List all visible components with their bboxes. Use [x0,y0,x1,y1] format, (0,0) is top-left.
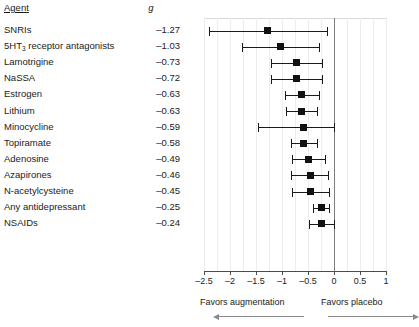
effect-size-value: –0.49 [122,151,180,167]
table-row: Adenosine–0.49 [4,151,194,167]
effect-size-value: –0.46 [122,167,180,183]
effect-size-marker [300,140,307,147]
ci-lower-cap [309,220,310,229]
effect-size-marker [305,156,312,163]
effect-size-marker [300,124,307,131]
axis-tick [308,271,309,275]
ci-lower-cap [285,91,286,100]
agent-label: Topiramate [4,135,51,151]
ci-lower-cap [313,204,314,213]
axis-tick [386,271,387,275]
effect-size-value: –0.63 [122,103,180,119]
study-row [204,55,386,71]
study-row [204,120,386,136]
arrow-left-icon [218,316,304,317]
effect-size-marker [293,75,300,82]
confidence-interval-line [258,127,334,128]
study-row [204,152,386,168]
ci-upper-cap [329,188,330,197]
ci-lower-cap [291,139,292,148]
axis-tick [360,271,361,275]
effect-size-value: –0.59 [122,119,180,135]
ci-upper-cap [325,155,326,164]
column-header-effect-size: g [144,2,158,13]
ci-upper-cap [317,107,318,116]
effect-size-marker [318,220,325,227]
study-row [204,184,386,200]
ci-upper-cap [317,139,318,148]
agent-label: Lamotrigine [4,54,54,70]
agent-label: Estrogen [4,86,42,102]
table-row: Topiramate–0.58 [4,135,194,151]
effect-size-value: –0.58 [122,135,180,151]
effect-size-value: –0.45 [122,183,180,199]
ci-upper-cap [322,75,323,84]
column-header-agent: Agent [4,2,29,13]
ci-lower-cap [258,123,259,132]
study-row [204,39,386,55]
effect-size-marker [298,91,305,98]
axis-tick [334,271,335,275]
effect-size-value: –1.03 [122,38,180,54]
effect-size-marker [318,204,325,211]
arrow-right-head-icon [413,314,419,320]
agent-label: Azapirones [4,167,52,183]
ci-lower-cap [271,59,272,68]
effect-size-value: –0.24 [122,215,180,231]
ci-lower-cap [292,188,293,197]
table-row: Any antidepressant–0.25 [4,199,194,215]
ci-lower-cap [242,43,243,52]
agent-label: N-acetylcysteine [4,183,74,199]
effect-size-marker [298,108,305,115]
agent-label: Any antidepressant [4,199,85,215]
arrow-left-head-icon [213,314,219,320]
effect-size-marker [307,172,314,179]
ci-upper-cap [319,43,320,52]
favors-augmentation-label: Favors augmentation [200,297,285,307]
ci-upper-cap [329,204,330,213]
ci-upper-cap [334,123,335,132]
ci-lower-cap [291,171,292,180]
axis-tick [204,271,205,275]
effect-size-value: –0.72 [122,70,180,86]
study-row [204,87,386,103]
table-row: Lamotrigine–0.73 [4,54,194,70]
ci-lower-cap [271,75,272,84]
agent-label: Adenosine [4,151,49,167]
study-row [204,168,386,184]
ci-lower-cap [286,107,287,116]
table-header-row: Agent g [4,2,194,18]
study-row [204,216,386,232]
effect-size-value: –1.27 [122,22,180,38]
table-row: N-acetylcysteine–0.45 [4,183,194,199]
table-row: SNRIs–1.27 [4,22,194,38]
agent-label: 5HT3 receptor antagonists [4,38,114,55]
effect-size-value: –0.25 [122,199,180,215]
ci-upper-cap [319,91,320,100]
axis-tick [282,271,283,275]
table-row: Minocycline–0.59 [4,119,194,135]
agent-label: Lithium [4,103,35,119]
favors-placebo-label: Favors placebo [321,297,383,307]
axis-tick [230,271,231,275]
table-row: Estrogen–0.63 [4,86,194,102]
effect-size-marker [277,43,284,50]
table-row: Azapirones–0.46 [4,167,194,183]
axis-tick-label: 1 [368,276,404,286]
axis-line [204,271,386,272]
gridline [386,18,387,271]
axis-direction-legend: Favors augmentation Favors placebo [196,297,401,327]
effect-size-value: –0.63 [122,86,180,102]
study-row [204,200,386,216]
table-row: Lithium–0.63 [4,103,194,119]
study-row [204,23,386,39]
effect-size-marker [264,27,271,34]
agent-label: Minocycline [4,119,54,135]
ci-upper-cap [322,59,323,68]
ci-lower-cap [209,27,210,36]
ci-lower-cap [292,155,293,164]
agent-label: NaSSA [4,70,35,86]
table-row: NaSSA–0.72 [4,70,194,86]
study-row [204,71,386,87]
